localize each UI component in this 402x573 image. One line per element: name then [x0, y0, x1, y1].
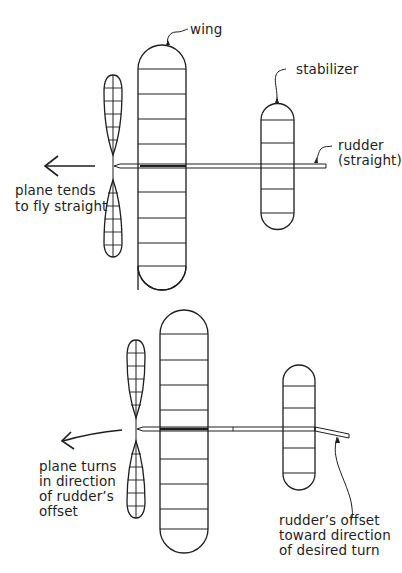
- straight-arrow-icon: [45, 156, 95, 176]
- rudder-offset-line2: toward direction: [279, 528, 391, 543]
- straight-result-line2: to fly straight: [15, 199, 107, 214]
- turn-arrow-icon: [62, 430, 122, 449]
- stabilizer-leader: [275, 69, 286, 103]
- wing-label: wing: [190, 22, 222, 37]
- panel-straight: [45, 29, 332, 290]
- stabilizer: [261, 104, 294, 230]
- stabilizer-label: stabilizer: [296, 62, 358, 77]
- rudder-offset: [315, 427, 349, 438]
- rudder-label-line1: rudder: [338, 138, 384, 153]
- fuselage: [137, 427, 315, 431]
- wing-leader: [166, 29, 188, 45]
- turn-result-line2: in direction: [39, 474, 116, 489]
- rudder-offset-line3: of desired turn: [279, 543, 380, 558]
- turn-result-line1: plane turns: [39, 459, 117, 474]
- turn-result-line4: offset: [39, 504, 78, 519]
- rudder-offset-leader: [335, 437, 352, 520]
- turn-result-line3: of rudder’s: [39, 489, 114, 504]
- rudder-leader: [314, 146, 332, 163]
- rudder-label-line2: (straight): [338, 153, 402, 168]
- straight-result-line1: plane tends: [15, 183, 96, 198]
- rudder-offset-line1: rudder’s offset: [279, 513, 380, 528]
